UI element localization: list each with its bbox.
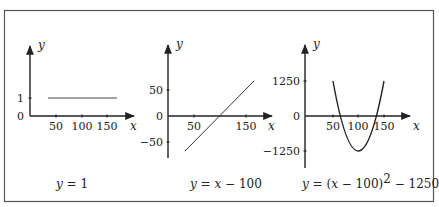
caption: y = 1 [55, 177, 88, 191]
y-axis-label: y [175, 37, 183, 51]
figure: y x 1 0 50 100 150 y = 1 y x 50 0 −50 50… [0, 0, 439, 207]
x-tick: 50 [326, 120, 340, 133]
figure-border [5, 11, 434, 202]
x-tick: 150 [374, 120, 395, 133]
x-axis-label: x [413, 119, 420, 133]
panel-quadratic: y x 1250 0 −1250 50 100 150 y = (x − 100… [263, 37, 439, 191]
y-axis-label: y [37, 38, 45, 52]
y-tick: −50 [140, 136, 163, 149]
caption: y = x − 100 [189, 177, 262, 191]
y-tick: 0 [17, 110, 24, 123]
x-tick: 150 [97, 120, 118, 133]
panel-linear: y x 50 0 −50 50 150 y = x − 100 [140, 37, 275, 191]
y-tick: 0 [156, 110, 163, 123]
x-axis-label: x [268, 119, 275, 133]
x-tick: 100 [348, 120, 369, 133]
y-tick: 1250 [272, 75, 300, 88]
y-axis-label: y [312, 37, 320, 51]
x-tick: 150 [236, 120, 257, 133]
x-axis-label: x [130, 119, 137, 133]
y-tick: −1250 [263, 145, 300, 158]
x-tick: 50 [187, 120, 201, 133]
y-tick: 1 [17, 92, 24, 105]
y-tick: 50 [149, 84, 163, 97]
y-tick: 0 [293, 110, 300, 123]
x-tick: 100 [72, 120, 93, 133]
panel-constant: y x 1 0 50 100 150 y = 1 [17, 38, 137, 191]
caption: y = (x − 100)2 − 1250 [301, 172, 439, 191]
x-tick: 50 [49, 120, 63, 133]
